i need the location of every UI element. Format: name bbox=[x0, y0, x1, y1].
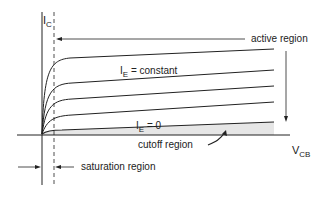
active-region-label: active region bbox=[251, 34, 308, 44]
saturation-left-arrowhead bbox=[35, 165, 41, 169]
characteristics-plot bbox=[0, 0, 331, 198]
cutoff-region-label: cutoff region bbox=[138, 140, 193, 150]
active-arrowhead-left bbox=[56, 37, 62, 41]
saturation-right-arrowhead bbox=[55, 165, 61, 169]
x-axis-label: VCB bbox=[292, 145, 310, 156]
y-axis-label: IC bbox=[43, 15, 52, 26]
active-arrowhead-down bbox=[284, 116, 288, 122]
ie-zero-label: IE = 0 bbox=[136, 121, 161, 131]
ie-constant-label: IE = constant bbox=[120, 66, 177, 76]
saturation-region-label: saturation region bbox=[81, 162, 156, 172]
